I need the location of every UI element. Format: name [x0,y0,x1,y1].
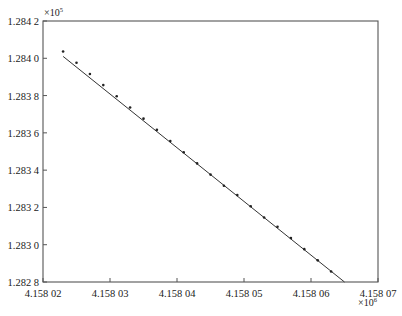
data-point [209,173,212,176]
data-point [102,84,105,87]
data-point [290,237,293,240]
data-point [169,140,172,143]
y-tick-label: 1.283 4 [8,165,40,176]
data-point [236,194,239,197]
y-axis-multiplier: ×105 [44,6,63,18]
y-tick-label: 1.283 0 [8,240,40,251]
x-tick-label: 4.158 02 [25,288,62,299]
data-point [182,151,185,154]
x-axis-multiplier: ×106 [358,296,378,308]
data-point [276,226,279,229]
y-tick-label: 1.283 6 [8,128,40,139]
fitted-line [63,56,344,282]
data-point [249,205,252,208]
y-tick-label: 1.284 0 [8,53,40,64]
data-point [316,259,319,262]
y-tick-label: 1.283 2 [8,202,40,213]
y-tick-label: 1.284 2 [8,16,40,27]
y-tick-label: 1.283 8 [8,91,40,102]
x-tick-label: 4.158 03 [92,288,129,299]
data-point [89,73,92,76]
y-tick-label: 1.282 8 [8,277,40,288]
data-point [142,117,145,120]
x-axis: 4.158 024.158 034.158 044.158 054.158 06… [25,278,397,299]
data-point [223,184,226,187]
data-point [156,129,159,132]
scatter-chart: 1.284 21.284 01.283 81.283 61.283 41.283… [0,0,402,316]
data-point [75,61,78,64]
x-tick-label: 4.158 04 [159,288,197,299]
data-point [115,95,118,98]
data-point [62,50,65,53]
data-point [196,162,199,165]
x-tick-label: 4.158 06 [293,288,330,299]
data-point [263,216,266,219]
data-point [129,106,132,109]
y-axis: 1.284 21.284 01.283 81.283 61.283 41.283… [8,16,48,288]
axes-frame [43,21,378,282]
data-point [330,270,333,273]
data-point [303,248,306,251]
x-tick-label: 4.158 05 [226,288,263,299]
